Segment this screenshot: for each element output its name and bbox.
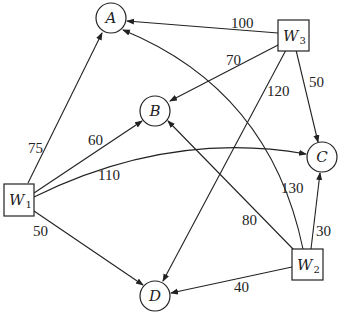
edges xyxy=(28,21,320,293)
node-d-label: D xyxy=(148,287,161,305)
edge-w1-a xyxy=(28,33,102,183)
node-c: C xyxy=(307,142,337,172)
weight-w3-d: 120 xyxy=(267,83,290,99)
node-c-label: C xyxy=(316,148,328,166)
weight-w3-c: 50 xyxy=(309,74,324,90)
weight-w3-a: 100 xyxy=(231,15,254,31)
edge-w1-d xyxy=(34,211,143,285)
weight-w2-c: 30 xyxy=(316,223,331,239)
weight-w2-b: 80 xyxy=(242,212,257,228)
node-a-label: A xyxy=(104,9,117,27)
node-b-label: B xyxy=(148,102,160,120)
node-b: B xyxy=(140,96,170,126)
edge-w2-d xyxy=(171,267,292,293)
node-w1: W1 xyxy=(4,184,34,216)
weight-w1-c: 110 xyxy=(98,167,120,183)
edge-w3-c xyxy=(296,50,318,142)
edge-w1-c xyxy=(34,148,306,197)
edge-weights: 75 60 110 50 100 70 120 50 130 80 30 40 xyxy=(28,15,331,295)
node-w3: W3 xyxy=(278,20,309,51)
weight-w1-a: 75 xyxy=(28,140,43,156)
node-a: A xyxy=(96,3,126,33)
edge-w3-a xyxy=(127,21,278,33)
weight-w1-b: 60 xyxy=(88,132,103,148)
edge-w2-b xyxy=(168,121,294,250)
node-w2: W2 xyxy=(292,249,323,280)
weight-w2-d: 40 xyxy=(234,279,249,295)
node-d: D xyxy=(140,281,170,311)
graph-diagram: 75 60 110 50 100 70 120 50 130 80 30 40 … xyxy=(0,0,340,313)
weight-w3-b: 70 xyxy=(226,52,241,68)
edge-w2-a xyxy=(123,30,303,249)
weight-w2-a: 130 xyxy=(281,180,304,196)
weight-w1-d: 50 xyxy=(33,223,48,239)
